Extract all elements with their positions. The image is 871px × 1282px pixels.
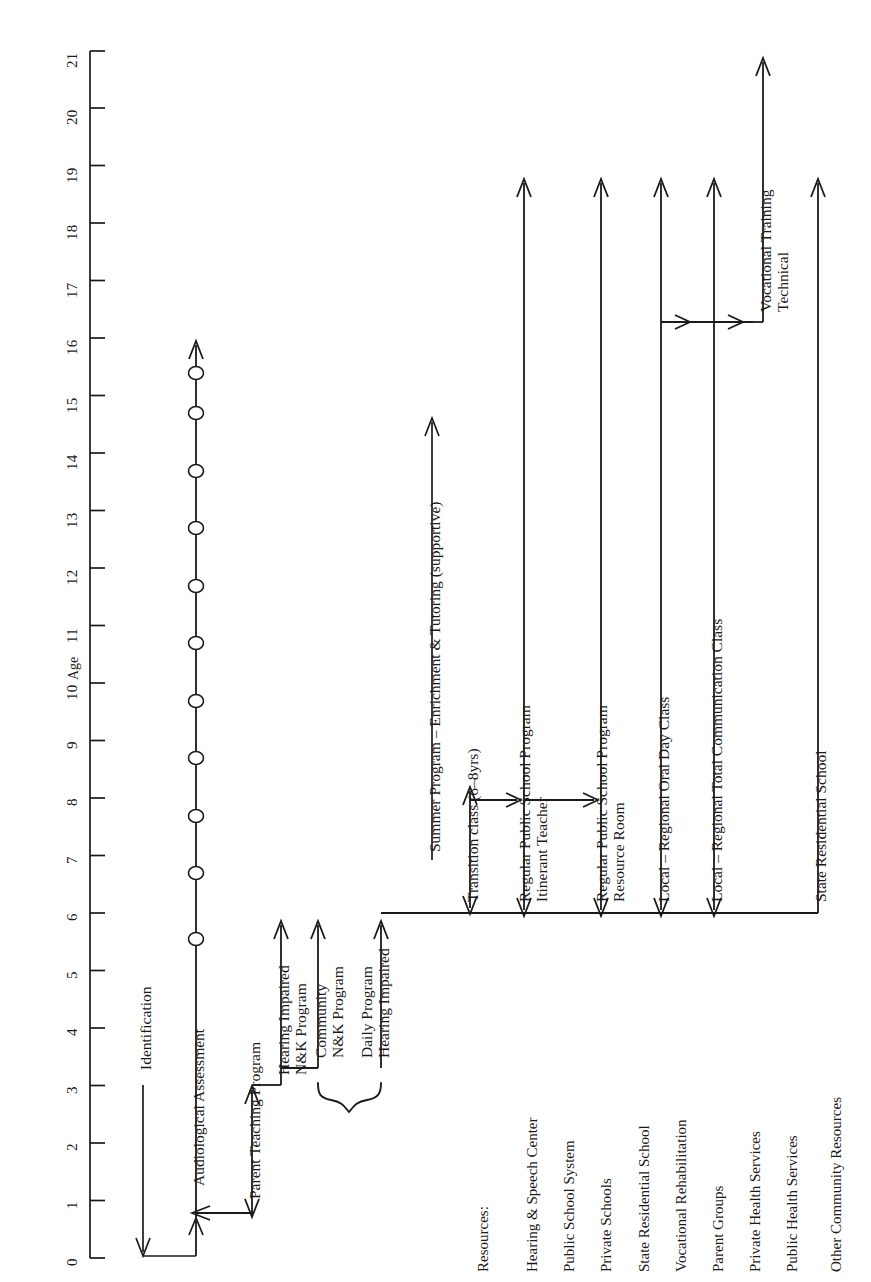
axis-tick-8: 8: [64, 798, 81, 806]
resource-item-private-schools: Private Schools: [598, 1178, 615, 1272]
axis-tick-15: 15: [64, 398, 81, 413]
age-axis: [90, 51, 105, 1258]
resource-item-state-residential-school: State Residential School: [636, 1125, 653, 1272]
axis-title-age: Age: [66, 657, 82, 680]
label-vocational-line2: Technical: [774, 252, 792, 312]
axis-tick-13: 13: [64, 513, 81, 528]
resource-item-private-health-services: Private Health Services: [747, 1131, 764, 1272]
label-identification: Identification: [137, 987, 155, 1071]
axis-tick-17: 17: [64, 283, 81, 298]
grouping-brace: [318, 1083, 381, 1112]
axis-tick-18: 18: [64, 225, 81, 240]
axis-tick-2: 2: [64, 1143, 81, 1151]
resource-item-hearing-speech-center: Hearing & Speech Center: [524, 1117, 541, 1272]
label-community-nk-line1: Community: [312, 984, 330, 1058]
label-summer-program: Summer Program – Enrichment & Tutoring (…: [426, 502, 444, 852]
resource-item-parent-groups: Parent Groups: [710, 1186, 727, 1272]
resource-item-other-community-resources: Other Community Resources: [828, 1097, 845, 1272]
axis-tick-12: 12: [64, 570, 81, 585]
resource-item-vocational-rehabilitation: Vocational Rehabilitation: [673, 1119, 690, 1272]
figure-canvas: Age 0 1 2 3 4 5 6 7 8 9 10 11 12 13 14 1…: [0, 0, 871, 1282]
label-regular-itinerant-line1: Regular Public School Program: [516, 705, 534, 902]
label-transition-class: Transition class (6–8yrs): [464, 748, 482, 902]
resource-item-public-school-system: Public School System: [561, 1140, 578, 1272]
axis-tick-9: 9: [64, 741, 81, 749]
label-regular-itinerant-line2: Itinerant Teacher: [533, 797, 551, 902]
series-identification: [136, 1085, 196, 1256]
label-parent-teaching-program: Parent Teaching Program: [246, 1042, 264, 1199]
axis-tick-6: 6: [64, 913, 81, 921]
label-daily-program-line1: Daily Program: [358, 966, 376, 1058]
label-community-nk-line2: N&K Program: [329, 966, 347, 1058]
resources-heading: Resources:: [475, 1206, 492, 1272]
axis-tick-20: 20: [64, 110, 81, 125]
label-state-residential-school: State Residential School: [812, 750, 830, 902]
label-audiological-assessment: Audiological Assessment: [190, 1029, 208, 1186]
label-vocational-line1: Vocational Training: [757, 190, 775, 312]
label-regular-resource-line1: Regular Public School Program: [593, 705, 611, 902]
axis-tick-4: 4: [64, 1028, 81, 1036]
axis-tick-16: 16: [64, 340, 81, 355]
axis-tick-7: 7: [64, 856, 81, 864]
axis-tick-14: 14: [64, 455, 81, 470]
label-local-oral-day-class: Local – Regional Oral Day Class: [655, 697, 673, 902]
axis-tick-21: 21: [64, 53, 81, 68]
axis-tick-1: 1: [64, 1201, 81, 1209]
axis-tick-3: 3: [64, 1086, 81, 1094]
label-hearing-impaired-nk-line2: N&K Program: [292, 983, 310, 1075]
axis-tick-19: 19: [64, 168, 81, 183]
label-hearing-impaired-nk-line1: Hearing Impaired: [275, 965, 293, 1075]
axis-tick-5: 5: [64, 971, 81, 979]
resource-item-public-health-services: Public Health Services: [784, 1135, 801, 1272]
label-daily-program-line2: Hearing Impaired: [375, 948, 393, 1058]
axis-tick-0: 0: [64, 1258, 81, 1266]
label-local-total-communication-class: Local – Regional Total Communication Cla…: [708, 619, 726, 902]
axis-tick-10: 10: [64, 685, 81, 700]
label-regular-resource-line2: Resource Room: [610, 803, 628, 902]
axis-tick-11: 11: [64, 628, 81, 643]
